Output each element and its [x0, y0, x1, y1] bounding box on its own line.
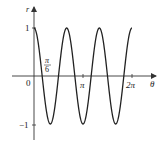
y-tick-label-neg1: −1	[19, 120, 29, 130]
x-axis-label: θ	[150, 79, 155, 89]
svg-text:6: 6	[45, 65, 49, 74]
pi-over-six-label: π 6	[44, 56, 51, 74]
y-axis-label: r	[26, 5, 30, 14]
y-tick-label-1: 1	[25, 23, 30, 33]
svg-text:π: π	[45, 56, 50, 65]
origin-label: 0	[26, 78, 31, 88]
polar-cos3-chart: r θ 0 1 −1 π 2π π 6	[0, 0, 165, 144]
x-tick-label-pi: π	[80, 80, 85, 90]
x-tick-label-2pi: 2π	[126, 80, 136, 90]
